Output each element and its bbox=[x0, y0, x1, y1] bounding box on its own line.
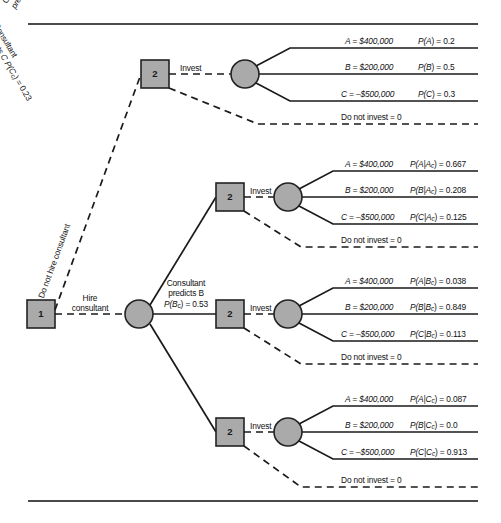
group4-do-not-invest-label: Do not invest = 0 bbox=[341, 475, 402, 485]
group3-chance-node[interactable] bbox=[274, 300, 302, 328]
group1-do-not-invest-label: Do not invest = 0 bbox=[341, 112, 402, 122]
group1-payoff-c: C = –$500,000 bbox=[341, 89, 394, 99]
group4-prob-a: P(A|Cc) = 0.087 bbox=[410, 394, 466, 405]
group2-prob-a: P(A|Ac) = 0.667 bbox=[410, 159, 466, 170]
group2-invest-label: Invest bbox=[250, 186, 271, 196]
group2-node-label: 2 bbox=[216, 191, 244, 202]
group3-invest-label: Invest bbox=[250, 303, 271, 313]
group1-prob-a: P(A) = 0.2 bbox=[418, 36, 454, 47]
group3-prob-b: P(B|Bc) = 0.849 bbox=[410, 302, 466, 313]
decision-tree-figure: 1 2 2 2 2 Do not hire consultant Hire co… bbox=[0, 0, 501, 523]
group4-payoff-b: B = $200,000 bbox=[345, 420, 393, 430]
group3-node-label: 2 bbox=[216, 308, 244, 319]
group3-prob-a: P(A|Bc) = 0.038 bbox=[410, 276, 466, 287]
group1-invest-label: Invest bbox=[180, 63, 201, 73]
group3-payoff-c: C = –$500,000 bbox=[341, 329, 394, 339]
predicts-b-prob-tail: ) = 0.53 bbox=[181, 299, 208, 309]
group1-prob-c: P(C) = 0.3 bbox=[418, 89, 455, 100]
predicts-b-line1: Consultant bbox=[167, 278, 206, 288]
group4-invest-label: Invest bbox=[250, 421, 271, 431]
group1-node-label: 2 bbox=[141, 68, 169, 79]
group4-chance-node[interactable] bbox=[274, 418, 302, 446]
group4-prob-b: P(B|Cc) = 0.0 bbox=[410, 420, 457, 431]
group3-payoff-a: A = $400,000 bbox=[345, 276, 393, 286]
group1-payoff-b: B = $200,000 bbox=[345, 62, 393, 72]
hire-consultant-line2: consultant bbox=[72, 303, 109, 313]
group2-do-not-invest-label: Do not invest = 0 bbox=[341, 235, 402, 245]
group1-chance-node[interactable] bbox=[231, 60, 259, 88]
root-node-label: 1 bbox=[27, 308, 55, 319]
group4-prob-c: P(C|Cc) = 0.913 bbox=[410, 447, 467, 458]
group4-payoff-c: C = –$500,000 bbox=[341, 447, 394, 457]
group2-payoff-a: A = $400,000 bbox=[345, 159, 393, 169]
group1-prob-b: P(B) = 0.5 bbox=[418, 62, 454, 73]
predicts-b-line2: predicts B bbox=[168, 288, 204, 298]
group2-prob-c: P(C|Ac) = 0.125 bbox=[410, 212, 466, 223]
group1-payoff-a: A = $400,000 bbox=[345, 36, 393, 46]
group4-payoff-a: A = $400,000 bbox=[345, 394, 393, 404]
group2-chance-node[interactable] bbox=[274, 183, 302, 211]
group2-payoff-b: B = $200,000 bbox=[345, 185, 393, 195]
group3-payoff-b: B = $200,000 bbox=[345, 302, 393, 312]
group2-payoff-c: C = –$500,000 bbox=[341, 212, 394, 222]
hire-consultant-label: Hire consultant bbox=[62, 293, 118, 314]
hire-consultant-line1: Hire bbox=[83, 293, 98, 303]
group3-do-not-invest-label: Do not invest = 0 bbox=[341, 352, 402, 362]
group2-prob-b: P(B|Ac) = 0.208 bbox=[410, 185, 466, 196]
group3-prob-c: P(C|Bc) = 0.113 bbox=[410, 329, 466, 340]
